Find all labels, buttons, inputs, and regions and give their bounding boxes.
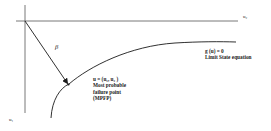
- diagram-canvas: u₂ u₁ β g (u) = 0 Limit State equation u…: [0, 0, 271, 131]
- beta-label: β: [55, 44, 58, 50]
- mpfp-label: u = (u₁, u₂ ) Most probable failure poin…: [93, 76, 126, 102]
- diagram-graphics: [0, 0, 271, 131]
- mpfp-line3: (MPFP): [93, 95, 126, 101]
- limit-state-caption: Limit State equation: [205, 54, 252, 60]
- mpfp-point: [67, 83, 69, 85]
- horizontal-axis-label: u₂: [243, 14, 247, 20]
- vertical-axis-label: u₁: [9, 117, 13, 123]
- beta-arrow: [25, 21, 68, 84]
- limit-state-label: g (u) = 0 Limit State equation: [205, 48, 252, 61]
